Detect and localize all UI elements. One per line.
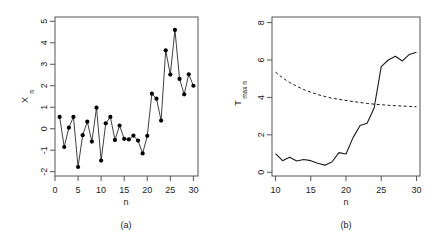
panel-b-y-label-main: T	[233, 100, 243, 106]
y-tick-label: 4	[39, 40, 49, 45]
series-line-threshold	[276, 72, 417, 107]
y-tick-label: 5	[39, 19, 49, 24]
data-point	[58, 115, 62, 119]
panel-b-caption: (b)	[341, 220, 352, 230]
data-point	[164, 48, 168, 52]
data-point	[99, 158, 103, 162]
data-point	[173, 28, 177, 32]
data-point	[104, 121, 108, 125]
panel-b: 02468 1015202530 T max n n (b)	[217, 0, 434, 241]
figure-panels: -2-1012345 051015202530 X n n (a) 02468 …	[0, 0, 434, 241]
x-tick-label: 10	[271, 185, 281, 195]
x-tick-label: 5	[76, 185, 81, 195]
panel-b-data-series	[276, 52, 417, 165]
x-tick-label: 10	[96, 185, 106, 195]
y-tick-label: 8	[256, 20, 266, 25]
data-point	[136, 138, 140, 142]
y-tick-label: 0	[39, 126, 49, 131]
panel-a-x-label: n	[123, 197, 128, 207]
x-tick-label: 15	[119, 185, 129, 195]
panel-b-y-label-sub: max n	[241, 81, 248, 99]
data-point	[117, 123, 121, 127]
data-point	[182, 92, 186, 96]
data-point	[131, 134, 135, 138]
data-point	[90, 140, 94, 144]
series-line	[60, 30, 194, 167]
series-line-observed	[276, 52, 417, 165]
data-point	[94, 106, 98, 110]
y-tick-label: -1	[39, 146, 49, 154]
x-tick-label: 25	[165, 185, 175, 195]
data-point	[122, 137, 126, 141]
y-tick-label: 4	[256, 95, 266, 100]
panel-a-y-axis-title: X n	[20, 90, 35, 103]
data-point	[71, 115, 75, 119]
data-point	[62, 145, 66, 149]
data-point	[150, 92, 154, 96]
data-point	[177, 77, 181, 81]
data-point	[127, 137, 131, 141]
panel-a-x-axis: 051015202530	[52, 176, 198, 195]
x-tick-label: 30	[411, 185, 421, 195]
panel-a-y-label-main: X	[20, 97, 30, 103]
panel-a-caption: (a)	[121, 220, 132, 230]
y-tick-label: 0	[256, 170, 266, 175]
data-point	[67, 126, 71, 130]
data-point	[108, 115, 112, 119]
data-point	[191, 84, 195, 88]
x-tick-label: 20	[341, 185, 351, 195]
data-point	[85, 120, 89, 124]
y-tick-label: 6	[256, 58, 266, 63]
y-tick-label: 2	[256, 132, 266, 137]
data-point	[168, 72, 172, 76]
x-tick-label: 20	[142, 185, 152, 195]
panel-b-frame	[272, 17, 420, 176]
x-tick-label: 25	[376, 185, 386, 195]
panel-a-y-axis: -2-1012345	[39, 19, 55, 176]
panel-a-data-series	[58, 28, 196, 169]
y-tick-label: -2	[39, 168, 49, 176]
x-tick-label: 30	[188, 185, 198, 195]
data-point	[113, 138, 117, 142]
y-tick-label: 1	[39, 105, 49, 110]
y-tick-label: 2	[39, 83, 49, 88]
panel-a-plot: -2-1012345 051015202530 X n n (a)	[0, 0, 217, 241]
panel-a: -2-1012345 051015202530 X n n (a)	[0, 0, 217, 241]
panel-b-y-axis-title: T max n	[233, 81, 248, 106]
data-point	[141, 151, 145, 155]
data-point	[76, 165, 80, 169]
data-point	[81, 133, 85, 137]
data-point	[159, 118, 163, 122]
data-point	[187, 72, 191, 76]
panel-a-y-label-sub: n	[28, 90, 35, 94]
panel-b-x-label: n	[343, 197, 348, 207]
panel-b-y-axis: 02468	[256, 20, 272, 175]
data-point	[154, 97, 158, 101]
data-point	[145, 134, 149, 138]
panel-b-x-axis: 1015202530	[271, 176, 422, 195]
y-tick-label: 3	[39, 62, 49, 67]
x-tick-label: 15	[306, 185, 316, 195]
panel-b-plot: 02468 1015202530 T max n n (b)	[217, 0, 434, 241]
x-tick-label: 0	[52, 185, 57, 195]
